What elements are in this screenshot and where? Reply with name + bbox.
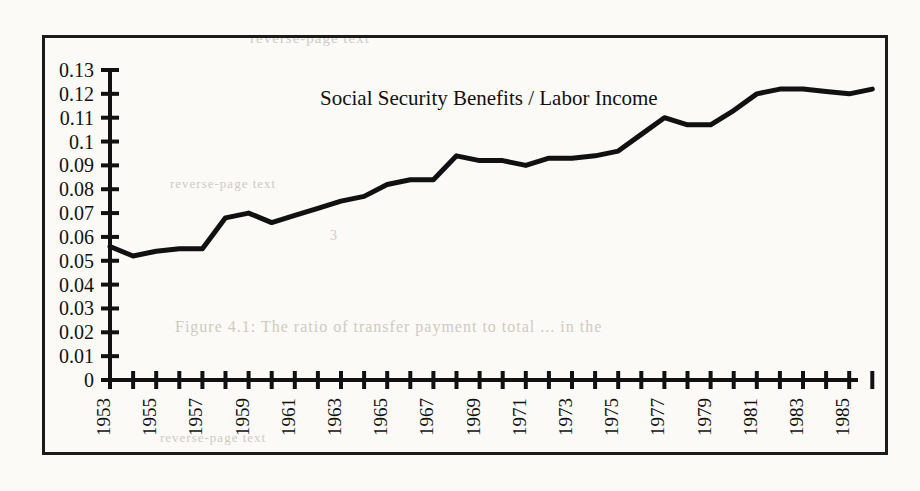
x-axis-tick-label: 1967 (416, 398, 437, 436)
x-axis-tick-label: 1975 (601, 398, 622, 436)
y-axis-tick-label: 0.05 (59, 250, 94, 272)
x-axis-tick-label: 1973 (555, 398, 576, 436)
x-axis-tick-label: 1965 (370, 398, 391, 436)
y-axis-tick-label: 0.11 (60, 107, 94, 129)
y-axis: 00.010.020.030.040.050.060.070.080.090.1… (59, 59, 119, 391)
y-axis-tick-label: 0 (84, 369, 94, 391)
x-axis-tick-label: 1977 (647, 398, 668, 436)
y-axis-tick-label: 0.12 (59, 83, 94, 105)
x-axis-tick-label: 1959 (232, 398, 253, 436)
data-series (110, 89, 872, 256)
x-axis-tick-label: 1953 (93, 398, 114, 436)
y-axis-tick-label: 0.03 (59, 297, 94, 319)
x-axis-tick-label: 1971 (509, 398, 530, 436)
x-axis: 1953195519571959196119631965196719691971… (93, 371, 872, 436)
x-axis-tick-label: 1955 (139, 398, 160, 436)
x-axis-tick-label: 1979 (694, 398, 715, 436)
y-axis-tick-label: 0.06 (59, 226, 94, 248)
y-axis-tick-label: 0.1 (69, 131, 94, 153)
x-axis-tick-label: 1981 (740, 398, 761, 436)
x-axis-tick-label: 1957 (185, 398, 206, 436)
y-axis-tick-label: 0.01 (59, 345, 94, 367)
scanned-page: reverse-page text reverse-page text 3 Fi… (0, 0, 920, 491)
y-axis-tick-label: 0.13 (59, 59, 94, 81)
line-chart: 00.010.020.030.040.050.060.070.080.090.1… (0, 0, 920, 491)
x-axis-tick-label: 1961 (278, 398, 299, 436)
x-axis-tick-label: 1983 (786, 398, 807, 436)
chart-title: Social Security Benefits / Labor Income (320, 86, 658, 110)
y-axis-tick-label: 0.04 (59, 274, 94, 296)
series-line (110, 89, 872, 256)
x-axis-tick-label: 1969 (463, 398, 484, 436)
y-axis-tick-label: 0.09 (59, 154, 94, 176)
y-axis-tick-label: 0.07 (59, 202, 94, 224)
y-axis-tick-label: 0.02 (59, 321, 94, 343)
y-axis-tick-label: 0.08 (59, 178, 94, 200)
x-axis-tick-label: 1963 (324, 398, 345, 436)
x-axis-tick-label: 1985 (832, 398, 853, 436)
